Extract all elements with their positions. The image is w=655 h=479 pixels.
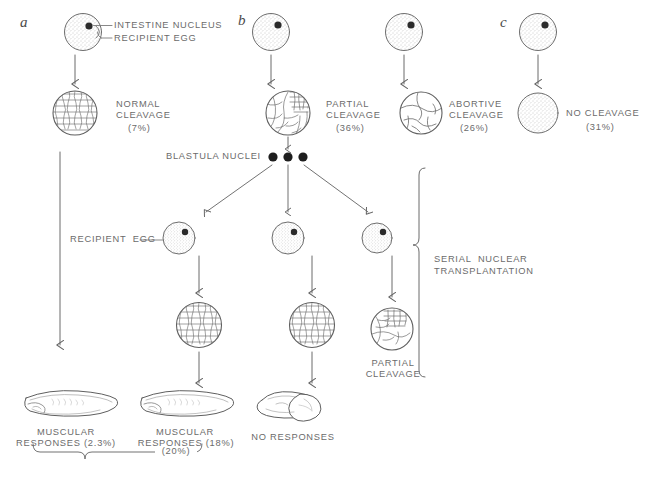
label-blastula-nuclei: BLASTULA NUCLEI: [166, 151, 261, 163]
tadpole-middle: [141, 391, 234, 417]
outcome-normal-cleavage-line2: CLEAVAGE: [116, 110, 171, 122]
outcome-partial-cleavage-line2: CLEAVAGE: [326, 110, 381, 122]
result-left-line2: RESPONSES (2.3%): [4, 438, 128, 450]
egg-serial-middle: [272, 222, 304, 254]
result-right-line1: NO RESPONSES: [248, 432, 338, 444]
outcome-partial-cleavage-percent: (36%): [336, 123, 365, 135]
arrow-branch-left: [206, 165, 272, 212]
label-serial-nuclear-transplantation-line2: TRANSPLANTATION: [434, 266, 534, 278]
egg-serial-left: [163, 222, 195, 254]
egg-serial-right: [362, 223, 392, 253]
outcome-abortive-cleavage-line2: CLEAVAGE: [449, 110, 504, 122]
serial-right-label-line2: CLEAVAGE: [360, 369, 426, 381]
outcome-normal-cleavage-line1: NORMAL: [116, 99, 160, 111]
outcome-partial-cleavage-line1: PARTIAL: [326, 99, 369, 111]
embryo-serial-left-blastula: [176, 302, 222, 348]
blastula-nuclei-dots: [268, 152, 307, 161]
label-serial-nuclear-transplantation-line1: SERIAL NUCLEAR: [434, 254, 528, 266]
outcome-abortive-cleavage-percent: (26%): [460, 123, 489, 135]
egg-a-intestine-nucleus: [65, 14, 102, 51]
serial-right-label-line1: PARTIAL: [360, 358, 426, 370]
result-middle-line1: MUSCULAR: [133, 427, 237, 439]
tadpole-left: [25, 391, 118, 417]
figure-root: a b c INTESTINE NUCLEUS RECIPIENT EGG NO…: [0, 0, 655, 479]
embryo-normal-cleavage: [53, 90, 97, 135]
label-recipient-egg: RECIPIENT EGG: [114, 33, 196, 45]
arrow-branch-right: [304, 165, 368, 212]
egg-abortive: [386, 14, 423, 51]
embryo-no-responses: [257, 392, 321, 421]
panel-letter-c: c: [500, 14, 507, 31]
outcome-no-cleavage-percent: (31%): [586, 122, 615, 134]
embryo-partial-cleavage: [264, 90, 310, 135]
embryo-abortive-cleavage: [400, 92, 442, 134]
embryo-serial-middle-blastula: [289, 302, 335, 348]
embryo-serial-right-partial: [371, 308, 413, 350]
label-intestine-nucleus: INTESTINE NUCLEUS: [114, 20, 222, 32]
embryo-no-cleavage: [518, 93, 558, 133]
brace-serial-nuclear-transplantation: [413, 168, 425, 377]
panel-letter-b: b: [238, 12, 246, 29]
panel-letter-a: a: [20, 14, 28, 31]
egg-c: [520, 14, 557, 51]
outcome-normal-cleavage-percent: (7%): [128, 123, 151, 135]
label-recipient-egg-lower: RECIPIENT EGG: [70, 234, 156, 246]
outcome-abortive-cleavage-line1: ABORTIVE: [449, 99, 502, 111]
summary-bracket-percent: (20%): [155, 446, 197, 458]
result-left-line1: MUSCULAR: [14, 427, 118, 439]
outcome-no-cleavage-line1: NO CLEAVAGE: [566, 108, 640, 120]
egg-b: [253, 14, 290, 51]
